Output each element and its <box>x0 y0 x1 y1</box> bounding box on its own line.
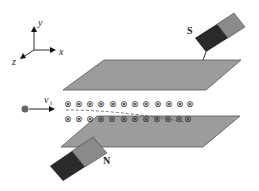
svg-text:⊗: ⊗ <box>131 114 139 124</box>
svg-text:⊗: ⊗ <box>120 99 128 109</box>
velocity-subscript: i <box>50 99 52 107</box>
svg-text:⊗: ⊗ <box>64 99 72 109</box>
field-row-top: ⊗⊗⊗ ⊗⊗⊗ ⊗⊗⊗ ⊗⊗⊗ <box>64 99 194 109</box>
svg-text:⊗: ⊗ <box>108 114 116 124</box>
svg-text:⊗: ⊗ <box>97 114 105 124</box>
svg-text:⊗: ⊗ <box>165 99 173 109</box>
svg-text:⊗: ⊗ <box>142 99 150 109</box>
svg-text:⊗: ⊗ <box>131 99 139 109</box>
z-axis-label: z <box>11 56 16 67</box>
svg-text:⊗: ⊗ <box>186 99 194 109</box>
svg-text:⊗: ⊗ <box>97 99 105 109</box>
coordinate-axes: y x z <box>11 17 64 67</box>
svg-text:⊗: ⊗ <box>75 114 83 124</box>
svg-text:⊗: ⊗ <box>184 114 192 124</box>
svg-text:⊗: ⊗ <box>153 114 161 124</box>
magnet-s: S <box>187 13 245 60</box>
n-pole-label: N <box>103 155 111 166</box>
magnetic-field-diagram: y x z S ⊗⊗⊗ ⊗⊗⊗ ⊗⊗⊗ ⊗⊗⊗ ⊗⊗⊗ ⊗⊗⊗ ⊗⊗⊗ ⊗⊗⊗ … <box>0 0 259 191</box>
velocity-label: v <box>44 94 49 105</box>
particle: v i <box>22 94 56 113</box>
y-axis-label: y <box>37 17 43 28</box>
upper-plate <box>63 60 241 90</box>
svg-text:⊗: ⊗ <box>120 114 128 124</box>
svg-text:⊗: ⊗ <box>176 99 184 109</box>
svg-text:⊗: ⊗ <box>154 99 162 109</box>
svg-text:⊗: ⊗ <box>86 99 94 109</box>
svg-text:⊗: ⊗ <box>75 99 83 109</box>
svg-text:⊗: ⊗ <box>109 99 117 109</box>
x-axis-label: x <box>58 46 64 57</box>
svg-text:⊗: ⊗ <box>86 114 94 124</box>
svg-text:⊗: ⊗ <box>64 114 72 124</box>
s-pole-label: S <box>187 25 193 36</box>
svg-text:⊗: ⊗ <box>175 114 183 124</box>
